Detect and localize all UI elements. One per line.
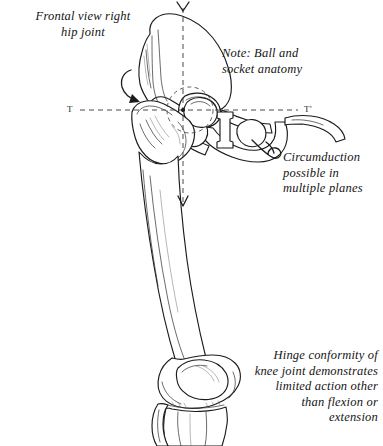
note-circumduction: Circumduction possible in multiple plane… xyxy=(283,150,383,197)
note-hinge-conformity: Hinge conformity of knee joint demonstra… xyxy=(226,348,378,426)
page-title: Frontal view right hip joint xyxy=(8,9,158,40)
anatomical-figure: Frontal view right hip joint Note: Ball … xyxy=(0,0,383,446)
axis-label-t-prime: T' xyxy=(304,104,312,114)
rotation-arrow-hip xyxy=(121,70,140,103)
structure-femoral-shaft xyxy=(139,152,206,368)
structure-tibia xyxy=(164,407,228,446)
note-ball-and-socket: Note: Ball and socket anatomy xyxy=(222,46,362,77)
axis-label-t: T xyxy=(67,104,73,114)
